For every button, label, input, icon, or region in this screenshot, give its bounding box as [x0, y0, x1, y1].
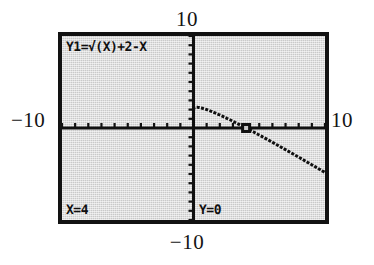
trace-cursor — [241, 123, 251, 133]
trace-x-readout: X=4 — [66, 204, 88, 217]
window-xmax-label: 10 — [331, 110, 353, 131]
axis-layer — [62, 36, 325, 220]
equation-display: Y1=√(X)+2-X — [66, 41, 147, 54]
equation-y-label: Y1= — [66, 40, 88, 55]
trace-y-readout: Y=0 — [199, 204, 221, 217]
curve-Y1 — [194, 107, 326, 172]
window-ymax-label: 10 — [0, 9, 374, 30]
graph-plot-area[interactable] — [62, 36, 325, 220]
calculator-screen[interactable]: Y1=√(X)+2-X X=4 Y=0 — [58, 32, 329, 224]
square-root-icon: √ — [88, 41, 95, 54]
window-ymin-label: −10 — [0, 232, 374, 253]
function-curve — [194, 107, 326, 172]
equation-body: (X)+2-X — [95, 40, 146, 55]
trace-cursor-center — [244, 126, 248, 130]
graph-svg — [62, 36, 325, 220]
window-xmin-label: −10 — [11, 110, 45, 131]
